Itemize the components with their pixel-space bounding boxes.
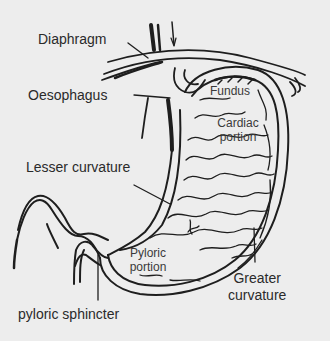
label-pyloric-line2: portion: [122, 260, 174, 274]
fundus-hatching: [215, 77, 255, 84]
label-lesser-curvature: Lesser curvature: [26, 160, 130, 175]
label-fundus: Fundus: [210, 84, 250, 98]
oesophagus-shape: [151, 22, 176, 50]
label-diaphragm: Diaphragm: [38, 32, 106, 47]
label-pyloric-sphincter: pyloric sphincter: [18, 307, 119, 322]
label-pyloric-portion: Pyloric portion: [122, 246, 174, 274]
stomach-diagram: Diaphragm Oesophagus Lesser curvature py…: [0, 0, 330, 341]
duodenum-shape: [14, 196, 108, 284]
label-pyloric-line1: Pyloric: [122, 246, 174, 260]
label-greater-line2: curvature: [228, 287, 286, 304]
leader-oesophagus: [134, 95, 170, 98]
label-cardiac-line2: portion: [210, 130, 266, 144]
label-cardiac-line1: Cardiac: [210, 116, 266, 130]
leader-greater-curvature: [254, 228, 255, 262]
label-oesophagus: Oesophagus: [28, 88, 107, 103]
label-greater-line1: Greater: [228, 270, 286, 287]
label-greater-curvature: Greater curvature: [228, 270, 286, 304]
label-cardiac-portion: Cardiac portion: [210, 116, 266, 144]
